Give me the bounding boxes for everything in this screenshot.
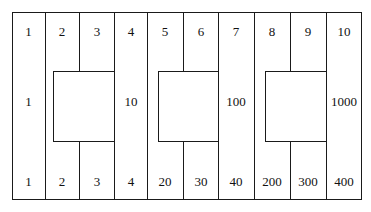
top-label-3: 3: [94, 24, 101, 39]
top-label-7: 7: [233, 24, 240, 39]
top-label-4: 4: [128, 24, 135, 39]
middle-label-100: 100: [226, 94, 246, 109]
bottom-label-4: 4: [128, 174, 135, 189]
middle-label-1: 1: [25, 94, 32, 109]
middle-label-10: 10: [125, 94, 138, 109]
top-label-10: 10: [338, 24, 351, 39]
bottom-label-20: 20: [159, 174, 172, 189]
bottom-label-40: 40: [230, 174, 243, 189]
bottom-label-400: 400: [334, 174, 354, 189]
bottom-label-1: 1: [25, 174, 32, 189]
bottom-label-200: 200: [262, 174, 282, 189]
inner-box-1: [54, 72, 115, 142]
top-label-9: 9: [305, 24, 312, 39]
middle-label-1000: 1000: [331, 94, 357, 109]
bottom-label-3: 3: [94, 174, 101, 189]
top-label-8: 8: [269, 24, 276, 39]
bottom-label-300: 300: [298, 174, 318, 189]
inner-box-2: [159, 72, 219, 142]
top-label-5: 5: [162, 24, 169, 39]
bottom-label-2: 2: [59, 174, 66, 189]
top-label-6: 6: [198, 24, 205, 39]
top-label-1: 1: [25, 24, 32, 39]
top-label-2: 2: [59, 24, 66, 39]
grouping-diagram: 1 2 3 4 5 6 7 8 9 10 1 10 100 1000 1 2 3…: [0, 0, 371, 212]
inner-box-3: [266, 72, 327, 142]
bottom-label-30: 30: [195, 174, 208, 189]
